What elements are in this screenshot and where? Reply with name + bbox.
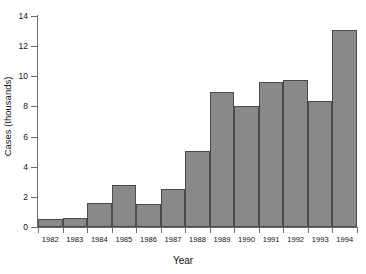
y-axis-tick-label: 2	[8, 193, 28, 202]
y-axis-tick	[31, 197, 37, 198]
x-axis-tick	[185, 228, 186, 233]
x-axis-tick	[136, 228, 137, 233]
y-axis-tick-label: 4	[8, 163, 28, 172]
bar-1989	[210, 92, 235, 227]
x-axis-tick	[332, 228, 333, 233]
x-axis-tick	[87, 228, 88, 233]
y-axis-tick	[31, 76, 37, 77]
bar-chart: Cases (thousands) 02468101214 1982198319…	[0, 0, 366, 274]
bar-1984	[87, 203, 112, 227]
bar-1993	[308, 101, 333, 227]
x-axis-line	[37, 227, 358, 228]
bar-1988	[185, 151, 210, 227]
bar-1987	[161, 189, 186, 227]
x-axis-tick	[283, 228, 284, 233]
bar-1983	[63, 218, 88, 227]
y-axis-tick-label: 6	[8, 133, 28, 142]
y-axis-tick-label: 10	[8, 72, 28, 81]
bar-1992	[283, 80, 308, 227]
x-axis-tick	[38, 228, 39, 233]
x-axis-tick	[234, 228, 235, 233]
x-axis-tick	[112, 228, 113, 233]
y-axis-tick-label: 0	[8, 223, 28, 232]
x-axis-tick	[63, 228, 64, 233]
bar-1990	[234, 106, 259, 227]
x-axis-tick	[210, 228, 211, 233]
x-axis-tick	[161, 228, 162, 233]
x-axis-tick	[308, 228, 309, 233]
y-axis-tick-label: 12	[8, 42, 28, 51]
x-axis-tick	[357, 228, 358, 233]
bar-1994	[332, 30, 357, 227]
bar-1982	[38, 219, 63, 227]
plot-area	[38, 16, 357, 227]
y-axis-tick-label: 14	[8, 12, 28, 21]
y-axis-tick	[31, 137, 37, 138]
bar-1991	[259, 82, 284, 227]
y-axis-tick	[31, 46, 37, 47]
y-axis-tick-label: 8	[8, 102, 28, 111]
y-axis-title-label: Cases (thousands)	[3, 76, 14, 156]
x-axis-title: Year	[0, 255, 366, 266]
y-axis-tick	[31, 16, 37, 17]
bar-1985	[112, 185, 137, 227]
y-axis-tick	[31, 167, 37, 168]
bar-1986	[136, 204, 161, 227]
x-axis-tick	[259, 228, 260, 233]
y-axis-tick	[31, 106, 37, 107]
x-axis-tick-label: 1994	[327, 236, 363, 244]
y-axis-tick	[31, 227, 37, 228]
